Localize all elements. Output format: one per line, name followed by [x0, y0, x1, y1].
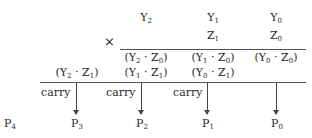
multiplier-z0: Z0	[270, 30, 282, 45]
product-rule-top	[120, 49, 306, 50]
multiplier-z1: Z1	[207, 30, 219, 45]
partial-y2-z1: (Y2 · Z1)	[56, 67, 99, 82]
multiply-operator: ×	[104, 35, 115, 48]
carry-label-p3: carry	[41, 87, 70, 99]
partial-y1-z1: (Y1 · Z1)	[125, 67, 168, 82]
carry-label-p2: carry	[106, 87, 135, 99]
result-p0: P0	[271, 118, 283, 133]
carry-label-p1: carry	[173, 87, 202, 99]
multiplicand-y2: Y2	[140, 12, 152, 27]
result-p2: P2	[136, 118, 148, 133]
partial-y0-z0: (Y0 · Z0)	[255, 52, 298, 67]
multiplicand-y1: Y1	[207, 12, 219, 27]
multiplicand-y0: Y0	[270, 12, 282, 27]
partial-y0-z1: (Y0 · Z1)	[192, 67, 235, 82]
result-p3: P3	[71, 118, 83, 133]
result-p4: P4	[4, 118, 16, 133]
arrow-down-icon	[207, 83, 208, 114]
arrow-down-icon	[276, 83, 277, 114]
arrow-down-icon	[141, 83, 142, 114]
arrow-down-icon	[76, 83, 77, 114]
partial-y1-z0: (Y1 · Z0)	[192, 52, 235, 67]
partial-y2-z0: (Y2 · Z0)	[125, 52, 168, 67]
result-p1: P1	[202, 118, 214, 133]
sum-rule-bottom	[40, 82, 306, 83]
